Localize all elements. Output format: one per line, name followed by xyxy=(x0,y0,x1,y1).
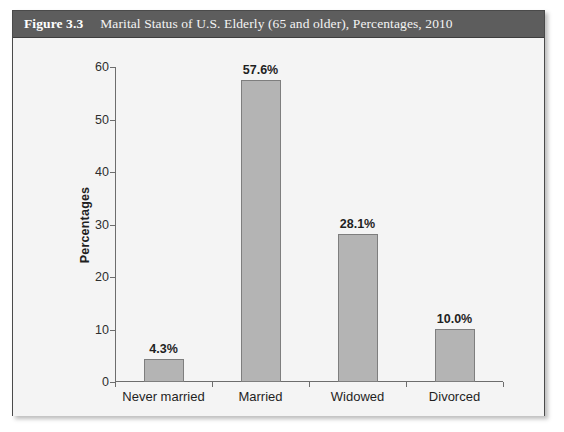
bar[interactable]: 57.6% xyxy=(241,80,281,382)
bar-group: 10.0%Divorced xyxy=(406,67,503,382)
x-axis-tick xyxy=(503,382,504,387)
x-axis-tick xyxy=(115,382,116,387)
bar-value-label: 4.3% xyxy=(149,342,178,356)
bar-group: 28.1%Widowed xyxy=(309,67,406,382)
bar[interactable]: 4.3% xyxy=(144,359,184,382)
figure-header: Figure 3.3 Marital Status of U.S. Elderl… xyxy=(13,11,544,38)
y-axis-tick-label: 10 xyxy=(95,323,109,337)
x-axis-category-label: Never married xyxy=(122,389,204,404)
bar-chart-plot-area: Percentages 01020304050604.3%Never marri… xyxy=(115,67,503,382)
bar-value-label: 28.1% xyxy=(340,217,375,231)
x-axis-category-label: Widowed xyxy=(331,389,384,404)
bar-group: 57.6%Married xyxy=(212,67,309,382)
chart-body: Percentages 01020304050604.3%Never marri… xyxy=(13,38,544,416)
figure-panel: Figure 3.3 Marital Status of U.S. Elderl… xyxy=(12,10,545,416)
x-axis-category-label: Married xyxy=(238,389,282,404)
figure-root: Figure 3.3 Marital Status of U.S. Elderl… xyxy=(0,0,564,432)
x-axis-category-label: Divorced xyxy=(429,389,480,404)
figure-number: Figure 3.3 xyxy=(24,16,83,32)
figure-title: Marital Status of U.S. Elderly (65 and o… xyxy=(100,16,452,32)
bar-value-label: 10.0% xyxy=(437,312,472,326)
y-axis-tick-label: 60 xyxy=(95,60,109,74)
y-axis-title: Percentages xyxy=(78,186,92,263)
bar-value-label: 57.6% xyxy=(243,63,278,77)
y-axis-tick-label: 20 xyxy=(95,270,109,284)
bar[interactable]: 28.1% xyxy=(338,234,378,382)
y-axis-tick-label: 40 xyxy=(95,165,109,179)
x-axis-tick xyxy=(406,382,407,387)
x-axis-tick xyxy=(212,382,213,387)
bar-group: 4.3%Never married xyxy=(115,67,212,382)
bar[interactable]: 10.0% xyxy=(435,329,475,382)
y-axis-tick-label: 0 xyxy=(102,375,109,389)
x-axis-tick xyxy=(309,382,310,387)
y-axis-tick-label: 50 xyxy=(95,113,109,127)
y-axis-tick-label: 30 xyxy=(95,218,109,232)
